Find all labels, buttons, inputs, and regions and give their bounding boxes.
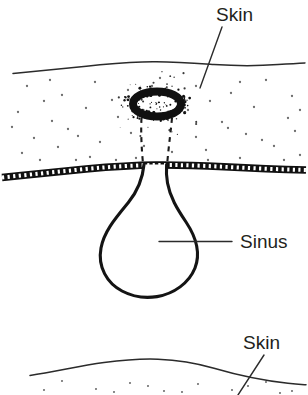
pore-speck: [130, 84, 131, 85]
stipple-dot: [21, 152, 23, 154]
stipple-dot: [265, 79, 267, 81]
anatomical-figure: Skin Sinus Skin: [0, 0, 308, 395]
stipple-dot: [163, 390, 165, 392]
pore-speck: [132, 116, 134, 118]
stipple-dot: [147, 385, 149, 387]
stipple-dot: [171, 151, 173, 153]
pore-speck: [169, 75, 171, 77]
skin-surface-line: [13, 62, 305, 74]
pore-speck: [186, 100, 187, 101]
stippled-subcutaneous-tissue-lower: [43, 380, 293, 394]
pore-speck: [176, 118, 177, 119]
pore-speck: [121, 104, 122, 105]
stipple-dot: [291, 390, 293, 392]
stipple-dot: [195, 85, 197, 87]
stipple-dot: [247, 385, 249, 387]
pore-speck: [147, 86, 149, 88]
stipple-dot: [130, 132, 132, 134]
pore-speck: [137, 117, 139, 119]
pore-speck: [142, 101, 144, 103]
pore-speck: [138, 87, 141, 90]
stipple-dot: [61, 380, 63, 382]
pore-speck: [124, 96, 126, 98]
stipple-dot: [61, 94, 63, 96]
stipple-dot: [239, 81, 241, 83]
stipple-dot: [94, 81, 96, 83]
pore-speck: [164, 102, 165, 103]
stipple-dot: [287, 117, 289, 119]
pore-speck: [163, 106, 164, 107]
sinus-diagram-canvas: Skin Sinus Skin: [0, 0, 308, 395]
pore-speck: [149, 103, 150, 104]
pore-speck: [188, 97, 191, 100]
stipple-dot: [227, 127, 229, 129]
stipple-dot: [77, 135, 79, 137]
stipple-dot: [195, 136, 197, 138]
sinus-cavity: [100, 165, 197, 298]
stipple-dot: [261, 139, 263, 141]
pore-speck: [151, 102, 152, 103]
pore-speck: [155, 102, 156, 103]
stipple-dot: [159, 77, 161, 79]
stipple-dot: [89, 156, 91, 158]
pore-speck: [128, 119, 129, 120]
pore-speck: [150, 107, 152, 109]
stipple-dot: [11, 126, 13, 128]
stipple-dot: [294, 130, 296, 132]
stipple-dot: [95, 388, 97, 390]
stipple-dot: [187, 109, 189, 111]
stipple-dot: [197, 383, 199, 385]
pore-speck: [173, 76, 174, 77]
pore-speck: [138, 103, 139, 104]
stipple-dot: [239, 157, 241, 159]
stipple-dot: [129, 382, 131, 384]
pore-speck: [183, 96, 184, 97]
pore-speck: [158, 101, 160, 103]
stipple-dot: [143, 145, 145, 147]
pore-speck: [159, 106, 160, 107]
stipple-dot: [279, 392, 281, 394]
stipple-dot: [111, 99, 113, 101]
pore-speck: [196, 121, 197, 122]
stipple-dot: [245, 133, 247, 135]
stipple-dot: [67, 128, 69, 130]
stipple-dot: [49, 79, 51, 81]
skin-top-label: Skin: [216, 4, 253, 25]
pore-speck: [177, 89, 179, 91]
pore-speck: [166, 83, 168, 85]
pore-speck: [171, 86, 172, 87]
pore-speck: [139, 135, 141, 137]
stipple-dot: [75, 159, 77, 161]
pore-speck: [195, 123, 197, 125]
skin-top-leader-line: [200, 27, 222, 88]
stipple-dot: [209, 100, 211, 102]
stipple-dot: [17, 111, 19, 113]
stipple-dot: [43, 389, 45, 391]
stipple-dot: [231, 389, 233, 391]
pore-speck: [122, 106, 123, 107]
stipple-dot: [99, 141, 101, 143]
stipple-dot: [181, 391, 183, 393]
pore-speck: [156, 108, 157, 109]
stipple-dot: [117, 116, 119, 118]
pore-speck: [185, 111, 187, 113]
pore-speck: [118, 96, 120, 98]
stipple-dot: [299, 154, 301, 156]
stipple-dot: [205, 149, 207, 151]
stipple-dot: [207, 159, 209, 161]
stipple-dot: [26, 85, 28, 87]
pore-speck: [161, 71, 162, 72]
pore-speck: [182, 72, 184, 74]
stipple-dot: [39, 159, 41, 161]
stipple-dot: [113, 391, 115, 393]
stipple-dot: [283, 159, 285, 161]
stipple-dot: [151, 85, 153, 87]
pore-speck: [165, 104, 166, 105]
pore-speck: [140, 86, 141, 87]
stipple-dot: [230, 92, 232, 94]
pore-speck: [169, 104, 171, 106]
stipple-dot: [299, 109, 301, 111]
pore-speck: [160, 109, 161, 110]
stipple-dot: [33, 137, 35, 139]
sinus-opening-pore: [118, 71, 198, 137]
